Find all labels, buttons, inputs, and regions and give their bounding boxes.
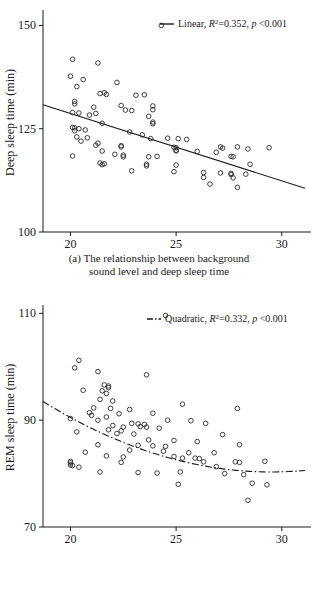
- scatter-points: [68, 313, 269, 502]
- scatter-point: [129, 169, 134, 174]
- scatter-point: [115, 80, 120, 85]
- scatter-point: [163, 444, 168, 449]
- scatter-point: [146, 155, 151, 160]
- scatter-point: [81, 77, 86, 82]
- y-axis-title: Deep sleep time (min): [3, 69, 17, 176]
- panel-a-caption: (a) The relationship between background …: [0, 252, 318, 278]
- legend: Linear, R2=0.352, p <0.001: [160, 18, 287, 29]
- scatter-point: [201, 460, 206, 465]
- scatter-point: [184, 137, 189, 142]
- scatter-point: [248, 162, 253, 167]
- scatter-point: [172, 169, 177, 174]
- y-tick-label: 125: [18, 122, 36, 136]
- scatter-point: [136, 443, 141, 448]
- scatter-points: [68, 23, 271, 190]
- scatter-point: [235, 145, 240, 150]
- scatter-point: [176, 482, 181, 487]
- scatter-point: [157, 426, 162, 431]
- panel-a-caption-line2: sound level and deep sleep time: [0, 265, 318, 278]
- legend-model: Linear,: [178, 18, 209, 29]
- scatter-point: [91, 406, 96, 411]
- x-tick-label: 20: [64, 237, 76, 250]
- scatter-point: [180, 456, 185, 461]
- scatter-point: [144, 372, 149, 377]
- legend-r2-value: =0.352,: [218, 18, 251, 29]
- legend-r2-symbol: R: [208, 313, 215, 324]
- scatter-point: [77, 358, 82, 363]
- scatter-point: [104, 454, 109, 459]
- scatter-point: [132, 432, 137, 437]
- x-tick-label: 25: [170, 237, 182, 250]
- y-tick-label: 70: [24, 520, 36, 534]
- scatter-point: [117, 411, 122, 416]
- scatter-point: [155, 154, 160, 159]
- scatter-point: [129, 421, 134, 426]
- scatter-point: [246, 498, 251, 503]
- scatter-point: [189, 418, 194, 423]
- scatter-point: [244, 172, 249, 177]
- scatter-point: [214, 150, 219, 155]
- scatter-point: [214, 464, 219, 469]
- scatter-figure: 100125150202530Sound pressure level [dB(…: [0, 0, 318, 591]
- scatter-point: [151, 411, 156, 416]
- scatter-point: [87, 113, 92, 118]
- scatter-point: [96, 369, 101, 374]
- scatter-point: [96, 61, 101, 66]
- legend-p-value: <0.001: [256, 18, 287, 29]
- scatter-point: [146, 114, 151, 119]
- panel-a-caption-line1: (a) The relationship between background: [0, 252, 318, 265]
- scatter-point: [110, 423, 115, 428]
- scatter-point: [265, 483, 270, 488]
- y-tick-label: 100: [18, 225, 36, 239]
- scatter-point: [83, 450, 88, 455]
- scatter-point: [98, 397, 103, 402]
- scatter-point: [83, 128, 88, 133]
- scatter-point: [203, 421, 208, 426]
- scatter-point: [180, 402, 185, 407]
- scatter-point: [119, 460, 124, 465]
- scatter-point: [75, 430, 80, 435]
- scatter-point: [235, 406, 240, 411]
- scatter-point: [72, 366, 77, 371]
- legend-p-value: <0.001: [257, 313, 288, 324]
- scatter-point: [186, 450, 191, 455]
- scatter-point: [241, 472, 246, 477]
- scatter-point: [155, 471, 160, 476]
- scatter-point: [96, 442, 101, 447]
- scatter-point: [96, 418, 101, 423]
- legend: Quadratic, R2=0.332, p <0.001: [147, 313, 288, 324]
- legend-text: Quadratic, R2=0.332, p <0.001: [165, 313, 288, 324]
- axis-spine: [43, 305, 311, 527]
- y-tick-label: 150: [18, 18, 36, 32]
- scatter-point: [220, 432, 225, 437]
- scatter-point: [77, 111, 82, 116]
- scatter-point: [246, 147, 251, 152]
- scatter-point: [208, 182, 213, 187]
- scatter-point: [113, 152, 118, 157]
- scatter-point: [161, 449, 166, 454]
- scatter-point: [250, 481, 255, 486]
- scatter-point: [127, 407, 132, 412]
- scatter-point: [212, 450, 217, 455]
- scatter-point: [106, 427, 111, 432]
- panel-a-plot: 100125150202530Sound pressure level [dB(…: [0, 0, 318, 250]
- scatter-point: [100, 388, 105, 393]
- scatter-point: [195, 149, 200, 154]
- scatter-point: [98, 470, 103, 475]
- scatter-point: [68, 74, 73, 79]
- legend-text: Linear, R2=0.352, p <0.001: [178, 18, 287, 29]
- scatter-point: [70, 154, 75, 159]
- scatter-point: [176, 136, 181, 141]
- scatter-point: [91, 105, 96, 110]
- scatter-point: [110, 399, 115, 404]
- y-tick-label: 110: [18, 306, 36, 320]
- scatter-point: [77, 465, 82, 470]
- scatter-point: [121, 455, 126, 460]
- y-tick-label: 90: [24, 413, 36, 427]
- quadratic-fit-curve: [43, 401, 305, 471]
- scatter-point: [222, 471, 227, 476]
- scatter-point: [134, 93, 139, 98]
- scatter-point: [104, 415, 109, 420]
- scatter-point: [218, 171, 223, 176]
- scatter-point: [70, 57, 75, 62]
